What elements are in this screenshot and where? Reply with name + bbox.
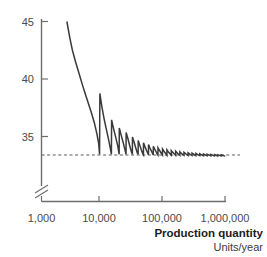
x-tick-label-10000: 10,000: [82, 212, 116, 224]
cost-vs-quantity-chart: 45 40 35 1,000 10,000 100,000 1,000,000 …: [0, 0, 267, 257]
chart-container: 45 40 35 1,000 10,000 100,000 1,000,000 …: [0, 0, 267, 257]
x-tick-label-1000: 1,000: [28, 212, 56, 224]
y-tick-label-45: 45: [22, 16, 34, 28]
x-tick-label-100000: 100,000: [142, 212, 182, 224]
unit-cost-series-line: [67, 22, 225, 156]
y-tick-label-40: 40: [22, 73, 34, 85]
x-axis-subtitle: Units/year: [213, 241, 263, 253]
y-tick-label-35: 35: [22, 131, 34, 143]
x-axis-title: Production quantity: [154, 227, 263, 239]
x-tick-label-1000000: 1,000,000: [201, 212, 250, 224]
